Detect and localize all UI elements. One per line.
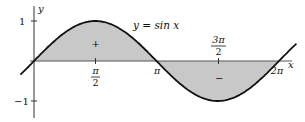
y-tick-label-minus-1: −1 [14,96,29,107]
minus-sign: − [215,73,223,84]
3pi-over-2-numerator: 3π [212,34,225,45]
pi-over-2-numerator: π [91,65,99,76]
3pi-over-2-denominator: 2 [215,46,221,57]
y-tick-label-1: 1 [19,16,25,27]
plus-sign: + [92,38,100,49]
equation-label: y = sin x [132,19,179,31]
pi-over-2-denominator: 2 [92,77,98,88]
sine-graph: y 1 −1 y = sin x + − π 2 π 3π 2 2π x [0,0,305,122]
y-axis-label: y [37,3,44,14]
pi-label: π [153,65,161,76]
x-axis-label: x [288,59,294,70]
2pi-label: 2π [270,65,284,76]
